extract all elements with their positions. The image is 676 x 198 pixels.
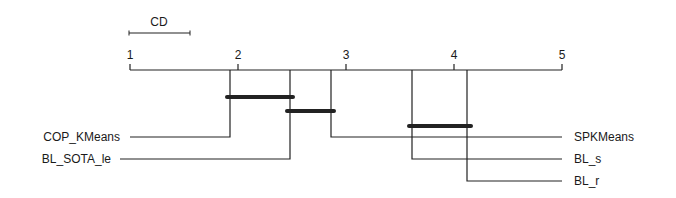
tick-label-3: 3	[343, 48, 350, 62]
method-label-bl-sota-le: BL_SOTA_le	[42, 152, 111, 166]
method-label-spkmeans: SPKMeans	[574, 130, 634, 144]
tick-label-1: 1	[127, 48, 134, 62]
method-label-cop-kmeans: COP_KMeans	[43, 130, 120, 144]
cd-scale: CD	[129, 15, 190, 36]
cd-label: CD	[150, 15, 168, 29]
tick-label-5: 5	[559, 48, 566, 62]
method-label-bl-r: BL_r	[574, 174, 599, 188]
method-lines	[120, 70, 562, 181]
rank-axis: 1 2 3 4 5	[127, 48, 566, 70]
cd-diagram: CD 1 2 3 4 5 COP_KMeans	[0, 0, 676, 198]
method-label-bl-s: BL_s	[574, 152, 601, 166]
tick-label-4: 4	[451, 48, 458, 62]
clique-bars	[227, 97, 471, 126]
tick-label-2: 2	[235, 48, 242, 62]
